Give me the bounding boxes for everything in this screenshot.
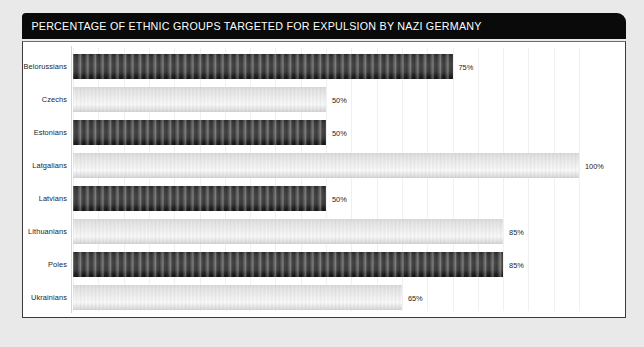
chart-title-bar: PERCENTAGE OF ETHNIC GROUPS TARGETED FOR… bbox=[22, 13, 626, 39]
category-label: Poles bbox=[23, 260, 67, 269]
page-title: PERCENTAGE OF ETHNIC GROUPS TARGETED FOR… bbox=[22, 20, 482, 32]
category-label: Estonians bbox=[23, 128, 67, 137]
bar-container bbox=[73, 54, 453, 79]
chart-page: PERCENTAGE OF ETHNIC GROUPS TARGETED FOR… bbox=[0, 0, 644, 347]
chart-row: Latgalians100% bbox=[23, 149, 625, 182]
bar-container bbox=[73, 219, 503, 244]
chart-row: Latvians50% bbox=[23, 182, 625, 215]
bar-container bbox=[73, 87, 326, 112]
bar-value-label: 65% bbox=[408, 293, 423, 302]
category-label: Belorussians bbox=[23, 62, 67, 71]
bar-container bbox=[73, 153, 579, 178]
bar-container bbox=[73, 285, 402, 310]
chart-row: Poles85% bbox=[23, 248, 625, 281]
category-label: Lithuanians bbox=[23, 227, 67, 236]
bar[interactable] bbox=[73, 153, 579, 178]
bar[interactable] bbox=[73, 54, 453, 79]
plot-area: Belorussians75%Czechs50%Estonians50%Latg… bbox=[23, 42, 625, 317]
bar-value-label: 50% bbox=[332, 95, 347, 104]
bar[interactable] bbox=[73, 219, 503, 244]
chart-row: Estonians50% bbox=[23, 116, 625, 149]
bar-value-label: 85% bbox=[509, 227, 524, 236]
chart-row: Lithuanians85% bbox=[23, 215, 625, 248]
chart-row: Ukrainians65% bbox=[23, 281, 625, 314]
category-label: Latgalians bbox=[23, 161, 67, 170]
bar[interactable] bbox=[73, 120, 326, 145]
bar[interactable] bbox=[73, 285, 402, 310]
category-label: Ukrainians bbox=[23, 293, 67, 302]
bar-container bbox=[73, 186, 326, 211]
bar-value-label: 50% bbox=[332, 194, 347, 203]
bar-container bbox=[73, 120, 326, 145]
chart-row: Belorussians75% bbox=[23, 50, 625, 83]
category-label: Czechs bbox=[23, 95, 67, 104]
chart-row: Czechs50% bbox=[23, 83, 625, 116]
bar[interactable] bbox=[73, 252, 503, 277]
bar[interactable] bbox=[73, 87, 326, 112]
bar-value-label: 75% bbox=[459, 62, 474, 71]
bar-value-label: 85% bbox=[509, 260, 524, 269]
bar-value-label: 50% bbox=[332, 128, 347, 137]
category-label: Latvians bbox=[23, 194, 67, 203]
bar-value-label: 100% bbox=[585, 161, 604, 170]
chart-panel: Belorussians75%Czechs50%Estonians50%Latg… bbox=[22, 41, 626, 318]
bar[interactable] bbox=[73, 186, 326, 211]
bar-container bbox=[73, 252, 503, 277]
